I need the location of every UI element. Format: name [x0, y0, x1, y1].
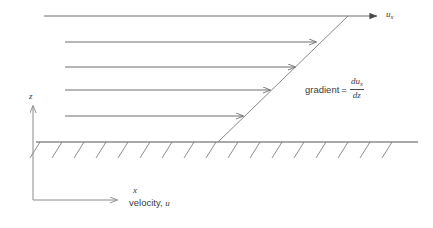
velocity-profile-svg — [0, 0, 433, 228]
velocity-symbol-label: ux — [386, 10, 393, 21]
velocity-caption-symbol: u — [165, 198, 170, 208]
derivative-fraction: dux dz — [350, 77, 364, 100]
velocity-caption: velocity, u — [129, 198, 170, 208]
diagram-canvas: ux z x velocity, u gradient = dux dz — [0, 0, 433, 228]
u-subscript: x — [391, 13, 394, 20]
velocity-caption-text: velocity, — [129, 197, 163, 208]
numerator-text: du — [351, 76, 360, 86]
gradient-annotation: gradient = dux dz — [305, 78, 364, 101]
z-axis-label: z — [29, 92, 33, 101]
equals-sign: = — [341, 85, 347, 95]
fraction-denominator: dz — [352, 90, 362, 100]
numerator-subscript: x — [360, 80, 363, 87]
coordinate-axes — [33, 106, 117, 200]
gradient-word: gradient — [305, 85, 339, 95]
x-axis-label: x — [133, 186, 137, 195]
boundary-hatching — [30, 142, 392, 158]
fraction-numerator: dux — [350, 77, 364, 89]
